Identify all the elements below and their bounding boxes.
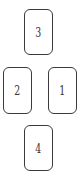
card-label: 1 [60, 84, 66, 97]
card-right: 1 [48, 67, 77, 114]
card-label: 4 [36, 142, 42, 155]
card-left: 2 [3, 67, 32, 114]
card-label: 2 [15, 84, 21, 97]
card-top: 3 [24, 9, 53, 55]
card-label: 3 [36, 26, 42, 39]
card-bottom: 4 [24, 125, 53, 171]
